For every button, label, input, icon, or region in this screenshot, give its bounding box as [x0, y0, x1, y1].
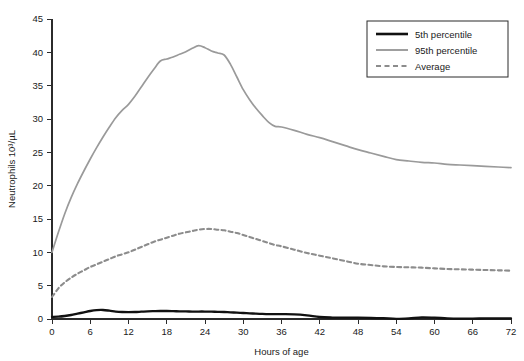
- x-tick-label: 30: [238, 326, 249, 337]
- x-tick-label: 36: [276, 326, 287, 337]
- y-tick-label: 30: [32, 113, 43, 124]
- y-tick-label: 45: [32, 13, 43, 24]
- chart-canvas: 051015202530354045 061218243036424854606…: [0, 0, 524, 361]
- chart-legend: 5th percentile95th percentileAverage: [367, 21, 508, 77]
- x-tick-label: 24: [200, 326, 211, 337]
- data-series-group: [52, 46, 511, 319]
- x-tick-label: 60: [429, 326, 440, 337]
- y-tick-label: 0: [38, 313, 43, 324]
- x-axis-ticks: 061218243036424854606672: [49, 319, 516, 337]
- x-axis-title: Hours of age: [254, 346, 308, 357]
- x-tick-label: 0: [49, 326, 54, 337]
- x-tick-label: 42: [314, 326, 325, 337]
- y-tick-label: 40: [32, 47, 43, 58]
- y-tick-label: 15: [32, 213, 43, 224]
- legend-label-95th-percentile: 95th percentile: [415, 45, 477, 56]
- y-tick-label: 20: [32, 180, 43, 191]
- y-tick-label: 10: [32, 247, 43, 258]
- legend-label-average: Average: [415, 61, 450, 72]
- x-tick-label: 54: [391, 326, 402, 337]
- x-tick-label: 18: [161, 326, 172, 337]
- series-line-5th-percentile: [52, 310, 511, 319]
- x-tick-label: 66: [467, 326, 478, 337]
- neutrophil-reference-range-chart: 051015202530354045 061218243036424854606…: [0, 0, 524, 361]
- x-tick-label: 6: [88, 326, 93, 337]
- x-tick-label: 72: [506, 326, 517, 337]
- y-tick-label: 25: [32, 147, 43, 158]
- y-tick-label: 35: [32, 80, 43, 91]
- y-axis-title: Neutrophils 10³/µL: [6, 130, 17, 208]
- x-tick-label: 12: [123, 326, 134, 337]
- y-tick-label: 5: [38, 280, 43, 291]
- y-axis-ticks: 051015202530354045: [32, 13, 52, 324]
- legend-label-5th-percentile: 5th percentile: [415, 29, 472, 40]
- series-line-average: [52, 229, 511, 297]
- x-tick-label: 48: [353, 326, 364, 337]
